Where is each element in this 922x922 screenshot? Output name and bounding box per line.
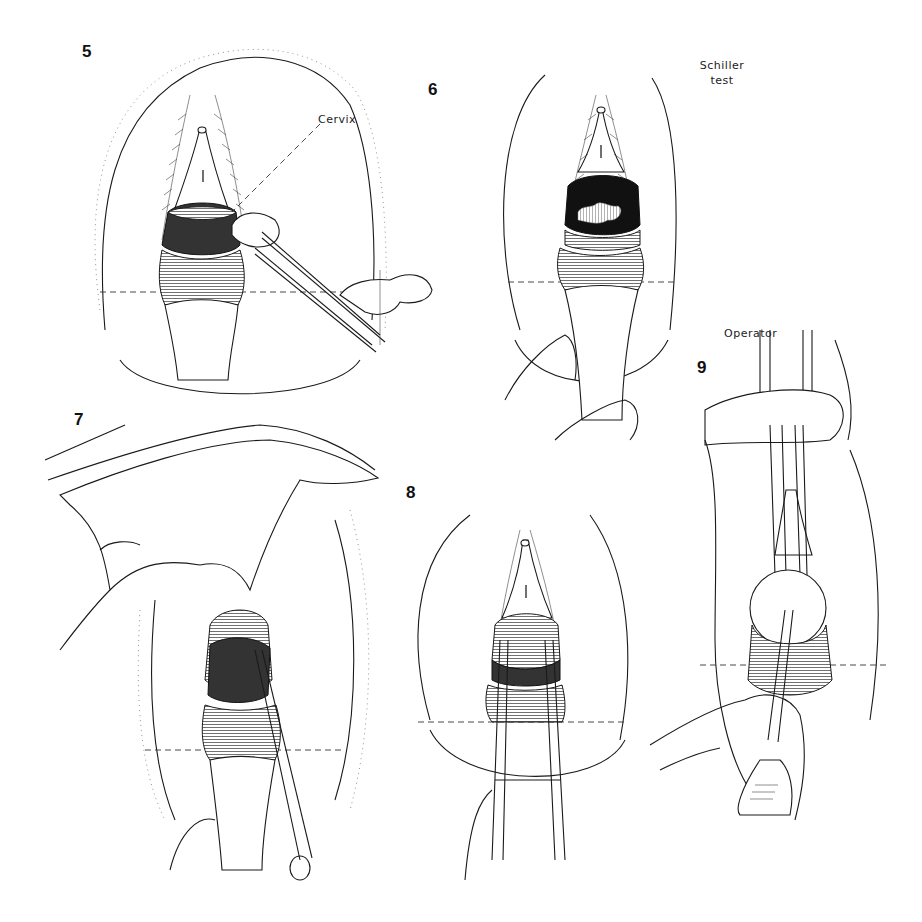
panel-9-drawing [650,330,890,820]
panel-6-number: 6 [428,80,437,100]
schiller-label-line1: Schiller [692,58,752,73]
panel-8-number: 8 [406,483,415,503]
panel-8-drawing [418,515,628,880]
panel-5-drawing [95,49,432,393]
panel-7-drawing [45,425,378,880]
panel-5-number: 5 [82,42,91,62]
cervix-label: Cervix [318,112,356,127]
schiller-label-line2: test [692,73,752,88]
operator-label: Operator [724,326,777,341]
line-art [0,0,922,922]
panel-6-drawing [504,75,677,440]
panel-7-number: 7 [74,410,83,430]
panel-9-number: 9 [697,358,706,378]
schiller-test-label: Schiller test [692,58,752,88]
medical-illustration-figure: 5 Cervix 6 Schiller test 7 8 9 Operator [0,0,922,922]
